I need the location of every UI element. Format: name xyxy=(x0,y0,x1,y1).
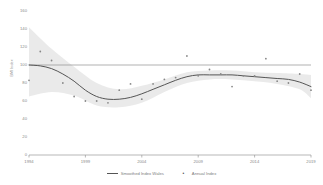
data-point xyxy=(130,83,132,85)
data-point xyxy=(28,79,30,81)
data-point xyxy=(73,96,75,98)
data-point xyxy=(152,83,154,85)
data-point xyxy=(175,77,177,79)
data-point xyxy=(186,55,188,57)
x-tick-label: 2009 xyxy=(183,160,213,164)
confidence-band xyxy=(29,27,311,107)
legend-label: Smoothed Index Wales xyxy=(121,171,164,176)
data-point xyxy=(141,98,143,100)
x-tick-label: 2004 xyxy=(127,160,157,164)
data-point xyxy=(276,80,278,82)
data-point xyxy=(96,100,98,102)
data-point xyxy=(288,82,290,84)
legend-item-smoothed: Smoothed Index Wales xyxy=(107,171,164,176)
line-swatch-icon xyxy=(107,173,118,174)
data-point xyxy=(197,75,199,77)
data-point xyxy=(299,73,301,75)
data-point xyxy=(220,73,222,75)
chart-container: BMI Index 160 140 120 100 80 60 40 20 0 … xyxy=(0,0,323,185)
data-point xyxy=(310,89,312,91)
chart-legend: Smoothed Index Wales • Annual Index xyxy=(0,171,323,176)
data-point xyxy=(209,69,211,71)
data-point xyxy=(118,89,120,91)
data-point xyxy=(107,102,109,104)
legend-item-annual: • Annual Index xyxy=(178,171,216,176)
data-point xyxy=(51,60,53,62)
data-point xyxy=(242,75,244,77)
data-point xyxy=(39,51,41,53)
dot-swatch-icon: • xyxy=(178,171,189,176)
data-point xyxy=(265,58,267,60)
plot-area xyxy=(0,0,323,185)
data-point xyxy=(62,82,64,84)
data-point xyxy=(254,75,256,77)
x-tick-label: 2019 xyxy=(296,160,323,164)
x-axis-ticks xyxy=(29,155,311,158)
data-point xyxy=(163,79,165,81)
data-point xyxy=(85,100,87,102)
x-tick-label: 1999 xyxy=(70,160,100,164)
x-tick-label: 2014 xyxy=(240,160,270,164)
data-point xyxy=(231,86,233,88)
x-tick-label: 1994 xyxy=(14,160,44,164)
legend-label: Annual Index xyxy=(192,171,216,176)
